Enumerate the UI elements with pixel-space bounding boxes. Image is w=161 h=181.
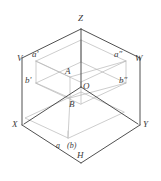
label-proj-b-side: b″ (119, 76, 127, 85)
label-axis-z: Z (78, 14, 83, 23)
label-plane-w: W (135, 54, 143, 63)
label-origin: O (83, 82, 90, 91)
construction-lines (25, 40, 126, 138)
label-plane-h: H (77, 151, 84, 160)
label-proj-a-front: a' (32, 50, 38, 59)
label-axis-y: Y (143, 120, 148, 129)
line-b-to-bprime (36, 83, 70, 98)
label-proj-b-top: (b) (67, 142, 76, 150)
label-proj-a-top: a (56, 142, 60, 150)
label-proj-b-front: b' (25, 76, 31, 85)
label-point-b: B (69, 100, 75, 109)
h-plane-right-edge (81, 125, 140, 163)
label-axis-x: X (12, 120, 18, 129)
projection-diagram: Z X Y V W H O A B a' b' a″ b″ a (b) (0, 0, 161, 181)
label-point-a: A (65, 67, 71, 76)
label-plane-v: V (17, 54, 23, 63)
label-proj-a-side: a″ (114, 50, 122, 59)
